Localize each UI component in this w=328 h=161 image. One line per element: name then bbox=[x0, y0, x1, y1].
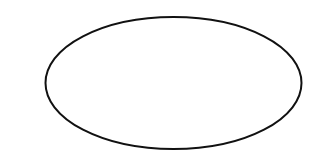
diagram-canvas bbox=[0, 0, 328, 161]
ellipse-shape bbox=[46, 17, 302, 149]
diagram-svg bbox=[0, 0, 328, 161]
